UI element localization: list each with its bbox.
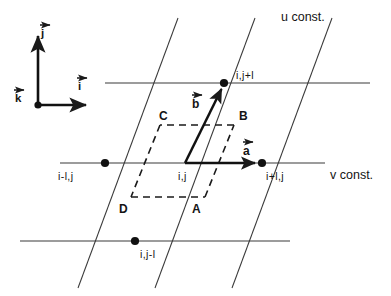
node-dot-bottom — [131, 237, 139, 245]
vector-b-label: b — [192, 98, 199, 110]
cell-edge-cd — [131, 125, 160, 197]
vector-b-shaft — [185, 89, 222, 163]
cartesian-triad — [34, 36, 86, 109]
node-label-i-j-minus-1: i,j-l — [140, 249, 155, 260]
node-label-i-j: i,j — [178, 171, 187, 182]
figure-canvas: u const. v const. i,j+l i,j i+l,j i-l,j … — [0, 0, 391, 296]
cell-corner-label-b: B — [239, 110, 248, 122]
triad-overarrow-group — [14, 25, 87, 90]
triad-label-j: j — [41, 28, 44, 40]
triad-origin-dot — [34, 101, 41, 108]
node-label-i-minus-1-j: i-l,j — [58, 171, 73, 182]
node-label-i-plus-1-j: i+l,j — [266, 171, 284, 182]
diagram-svg — [0, 0, 391, 296]
triad-label-k: k — [15, 93, 21, 105]
node-dot-right — [258, 159, 266, 167]
triad-label-i: i — [78, 81, 81, 93]
u-const-line-left — [78, 18, 178, 288]
node-dot-left — [101, 159, 109, 167]
cell-corner-label-d: D — [119, 203, 128, 215]
u-const-label: u const. — [281, 11, 325, 24]
control-volume-cell — [131, 125, 234, 197]
v-const-label: v const. — [330, 169, 373, 182]
node-dot-top — [220, 79, 228, 87]
vector-a-label: a — [243, 145, 250, 157]
cell-corner-label-c: C — [159, 110, 168, 122]
node-label-i-j-plus-1: i,j+l — [236, 70, 254, 81]
cell-edge-ab — [205, 125, 234, 197]
cell-corner-label-a: A — [192, 203, 201, 215]
u-const-line-group — [78, 18, 332, 288]
u-const-line-middle — [155, 18, 255, 288]
